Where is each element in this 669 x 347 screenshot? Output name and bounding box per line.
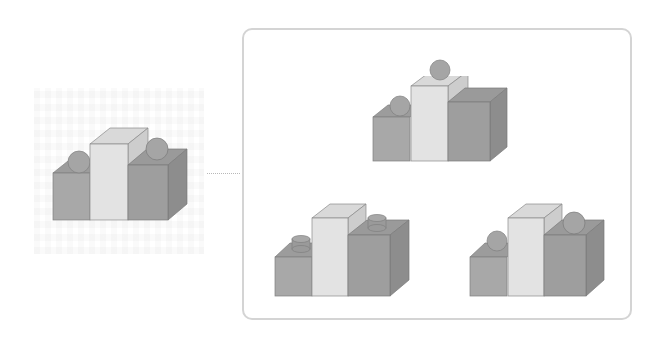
blocks-with-spheres-icon — [467, 202, 607, 298]
option-bottom-left-figure[interactable] — [272, 202, 412, 298]
option-top-sphere — [428, 58, 452, 82]
dotted-connector — [207, 173, 240, 174]
option-bottom-right-figure[interactable] — [467, 202, 607, 298]
blocks-with-cylinders-icon — [272, 202, 412, 298]
sphere-icon — [428, 58, 452, 82]
blocks-sphere-on-prism-icon — [370, 76, 510, 166]
option-top-figure[interactable] — [370, 76, 510, 166]
reference-figure — [50, 125, 190, 225]
blocks-with-spheres-icon — [50, 125, 190, 225]
